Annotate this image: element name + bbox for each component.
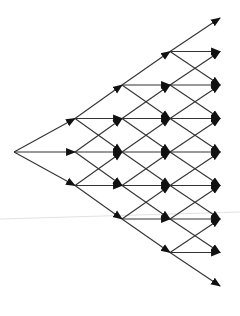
edge-arrow-up xyxy=(14,119,75,153)
edge-arrow-up xyxy=(170,18,220,52)
edge-arrow-up xyxy=(122,52,170,86)
edge-arrow-up xyxy=(75,85,122,119)
tree-edges xyxy=(14,18,220,286)
edge-arrow-down xyxy=(14,152,75,186)
lattice-canvas xyxy=(0,0,240,316)
edge-arrow-down xyxy=(122,219,170,253)
trinomial-tree-diagram xyxy=(0,0,240,316)
edge-arrow-down xyxy=(170,253,220,287)
edge-arrow-down xyxy=(75,186,122,220)
